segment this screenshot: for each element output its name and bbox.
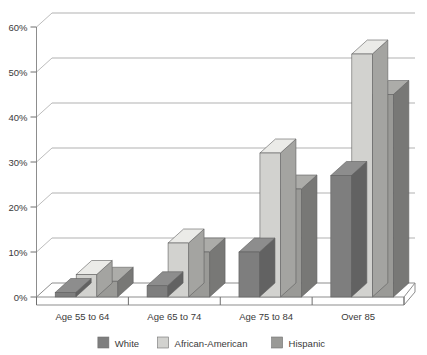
x-tick-label: Over 85 [341,311,375,322]
bar-chart: 60%50%40%30%20%10%0% Age 55 to 64Age 65 … [0,0,427,355]
legend-swatch [98,337,109,348]
bar-side-face [280,139,296,297]
bar-front-face [55,293,76,298]
y-tick-label: 50% [8,67,28,78]
bar-side-face [393,81,409,298]
legend-label: White [115,338,139,349]
legend-item-white[interactable]: White [98,337,139,349]
legend-label: Hispanic [289,338,326,349]
chart-legend: WhiteAfrican-AmericanHispanic [98,337,325,349]
x-tick-label: Age 55 to 64 [55,311,109,322]
legend-item-african-american[interactable]: African-American [158,337,248,349]
x-axis-separators [37,297,405,305]
x-tick-label: Age 65 to 74 [147,311,201,322]
bar-front-face [147,286,168,297]
y-tick-label: 0% [14,292,28,303]
bar-side-face [351,162,367,298]
y-tick-label: 10% [8,247,28,258]
bar-white-3 [331,162,367,298]
bar-series-group [55,40,409,297]
legend-swatch [272,337,283,348]
y-axis-ticks: 60%50%40%30%20%10%0% [8,22,36,303]
legend-item-hispanic[interactable]: Hispanic [272,337,326,349]
y-tick-label: 30% [8,157,28,168]
bar-front-face [239,252,260,297]
bar-side-face [372,40,388,297]
bar-side-face [301,175,317,297]
y-tick-label: 60% [8,22,28,33]
y-tick-label: 40% [8,112,28,123]
bar-white-2 [239,238,275,297]
x-tick-label: Age 75 to 84 [239,311,293,322]
legend-swatch [158,337,169,348]
legend-label: African-American [175,338,248,349]
chart-canvas: 60%50%40%30%20%10%0% Age 55 to 64Age 65 … [0,0,427,355]
bar-front-face [331,176,352,298]
y-tick-label: 20% [8,202,28,213]
x-axis-ticks: Age 55 to 64Age 65 to 74Age 75 to 84Over… [55,311,374,322]
